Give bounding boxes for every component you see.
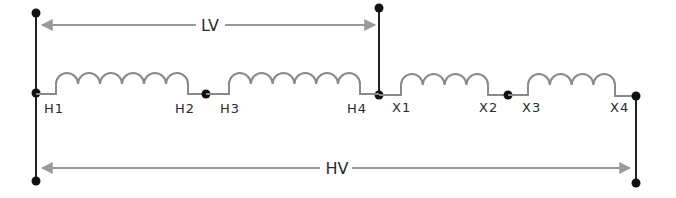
coil-h3-h4 [206,73,379,94]
terminal-label-x4: X4 [610,100,629,115]
terminal-label-h3: H3 [220,101,240,116]
terminal-dot-top-left [32,9,41,18]
lv-right-lead [375,4,384,100]
coil-h1-h2 [36,73,206,94]
terminal-dot-bottom-right [632,179,641,188]
terminal-dot-top-right [375,4,384,13]
winding-diagram: LV HV H1 H2 H3 H4 X1 X2 X3 X4 [0,0,676,198]
terminal-dot-bottom-left [32,177,41,186]
hv-label: HV [326,159,349,178]
coil-x3-x4 [508,74,636,96]
lv-label: LV [201,16,219,35]
coil-x1-x2 [379,74,508,95]
left-lead [32,9,41,186]
terminal-label-h1: H1 [44,101,64,116]
terminal-label-x3: X3 [522,100,541,115]
right-lead [632,92,641,188]
terminal-label-h2: H2 [175,101,195,116]
hv-dimension-arrow: HV [42,159,630,178]
terminal-label-x1: X1 [392,100,411,115]
terminal-dot-x4 [632,92,641,101]
terminal-label-x2: X2 [479,100,498,115]
terminal-label-h4: H4 [347,101,367,116]
lv-dimension-arrow: LV [42,16,375,35]
